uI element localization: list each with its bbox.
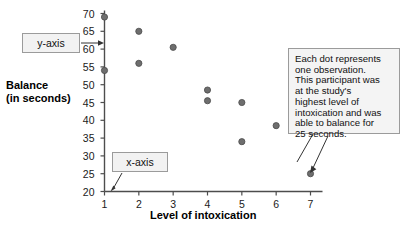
chart-figure: 2025303540455055606570 1234567 Balance (…: [0, 0, 410, 233]
y-axis-tick-label: 40: [73, 115, 95, 126]
observation-note-callout: Each dot representsone observation.This …: [288, 48, 400, 134]
data-point: [136, 60, 142, 66]
observation-note-pointer: [313, 136, 328, 168]
x-axis-tick-label: 7: [303, 199, 319, 210]
data-point: [239, 139, 245, 145]
data-point: [204, 87, 210, 93]
y-axis-tick-label: 30: [73, 151, 95, 162]
observation-note-line-8: 25 seconds.: [295, 129, 394, 140]
x-axis-tick-label: 1: [97, 199, 113, 210]
data-point: [170, 44, 176, 50]
data-point: [273, 123, 279, 129]
x-axis-tick-label: 4: [200, 199, 216, 210]
y-axis-title-line1: Balance: [6, 79, 90, 92]
y-axis-tick-label: 55: [73, 62, 95, 73]
x-axis-callout-leader: [113, 173, 122, 189]
y-axis-tick-label: 20: [73, 187, 95, 198]
x-axis-tick-label: 6: [268, 199, 284, 210]
x-axis-tick-label: 5: [234, 199, 250, 210]
y-axis-title: Balance (in seconds): [6, 79, 90, 105]
y-axis-tick-label: 25: [73, 169, 95, 180]
y-axis-tick-label: 70: [73, 9, 95, 20]
x-axis-tick-label: 2: [131, 199, 147, 210]
y-axis-title-line2: (in seconds): [6, 92, 90, 105]
x-axis-title: Level of intoxication: [150, 209, 256, 222]
data-point: [101, 14, 107, 20]
y-axis-callout-arrowhead: [98, 40, 104, 46]
data-point: [239, 99, 245, 105]
y-axis-callout-label: y-axis: [37, 37, 64, 49]
observation-note-line-5: highest level of: [295, 97, 394, 108]
data-point: [101, 67, 107, 73]
x-axis-tick-label: 3: [165, 199, 181, 210]
x-axis-callout-label: x-axis: [126, 156, 153, 168]
y-axis-callout: y-axis: [22, 33, 80, 53]
y-axis-tick-label: 35: [73, 133, 95, 144]
data-point: [136, 28, 142, 34]
data-point: [204, 98, 210, 104]
x-axis-callout: x-axis: [112, 152, 168, 172]
